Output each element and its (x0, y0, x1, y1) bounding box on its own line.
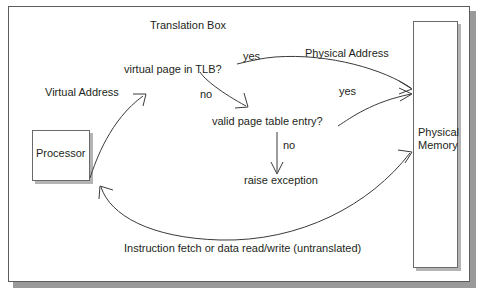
diagram-title: Translation Box (150, 19, 226, 32)
processor-box: Processor (32, 130, 90, 181)
processor-label: Processor (36, 147, 86, 159)
tlb-no-label: no (200, 88, 212, 101)
physical-memory-box: PhysicalMemory (413, 21, 458, 268)
physical-memory-label-line2: Memory (418, 139, 458, 151)
raise-exception-label: raise exception (244, 174, 318, 187)
physical-address-label: Physical Address (305, 47, 389, 60)
pte-yes-label: yes (339, 85, 356, 98)
virtual-address-label: Virtual Address (45, 86, 119, 99)
physical-memory-label: PhysicalMemory (418, 126, 459, 152)
tlb-decision-label: virtual page in TLB? (124, 63, 222, 76)
physical-memory-label-line1: Physical (418, 126, 459, 138)
tlb-yes-label: yes (243, 50, 260, 63)
untranslated-path-label: Instruction fetch or data read/write (un… (124, 242, 361, 255)
pte-decision-label: valid page table entry? (212, 115, 323, 128)
pte-no-label: no (283, 139, 295, 152)
diagram-canvas: Translation Box Processor PhysicalMemory… (0, 0, 503, 301)
